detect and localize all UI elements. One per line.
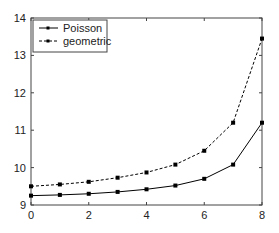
data-point-marker xyxy=(58,182,62,186)
legend-geometric-marker-icon xyxy=(47,40,50,43)
data-point-marker xyxy=(145,187,149,191)
y-tick-label: 9 xyxy=(20,199,26,211)
data-point-marker xyxy=(173,163,177,167)
data-point-marker xyxy=(87,180,91,184)
data-point-marker xyxy=(116,190,120,194)
data-point-marker xyxy=(173,184,177,188)
y-tick-label: 14 xyxy=(14,12,26,24)
data-point-marker xyxy=(231,163,235,167)
y-tick-label: 10 xyxy=(14,162,26,174)
x-tick-label: 6 xyxy=(201,209,207,221)
data-point-marker xyxy=(202,149,206,153)
data-point-marker xyxy=(29,184,33,188)
y-tick-label: 11 xyxy=(15,124,26,136)
y-tick-label: 13 xyxy=(14,49,26,61)
data-point-marker xyxy=(231,121,235,125)
data-point-marker xyxy=(116,176,120,180)
legend-label-geometric: geometric xyxy=(63,35,112,47)
x-tick-label: 2 xyxy=(86,209,92,221)
series-lines xyxy=(29,37,264,198)
data-point-marker xyxy=(58,193,62,197)
data-point-marker xyxy=(145,170,149,174)
legend: Poisson geometric xyxy=(33,20,112,52)
x-tick-label: 0 xyxy=(28,209,34,221)
data-point-marker xyxy=(29,194,33,198)
series-line-poisson xyxy=(31,123,262,196)
y-tick-label: 12 xyxy=(14,87,26,99)
data-point-marker xyxy=(260,37,264,41)
series-line-geometric xyxy=(31,39,262,187)
line-chart: 0246891011121314 Poisson geometric xyxy=(0,0,279,233)
legend-label-poisson: Poisson xyxy=(63,22,102,34)
x-tick-label: 8 xyxy=(259,209,265,221)
legend-poisson-marker-icon xyxy=(47,27,50,30)
data-point-marker xyxy=(87,192,91,196)
data-point-marker xyxy=(260,121,264,125)
x-tick-label: 4 xyxy=(143,209,149,221)
data-point-marker xyxy=(202,177,206,181)
